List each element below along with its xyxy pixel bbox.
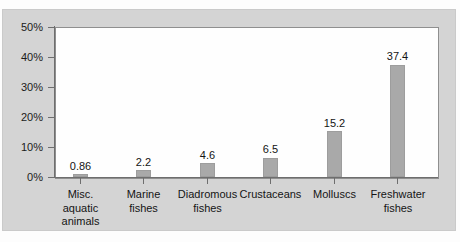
x-axis-category-label: Diadromous fishes bbox=[175, 188, 240, 215]
bar-crustaceans[interactable] bbox=[263, 158, 278, 178]
bar-value-label: 2.2 bbox=[113, 156, 174, 168]
y-axis-tick bbox=[48, 57, 54, 58]
bar-molluscs[interactable] bbox=[327, 131, 342, 177]
bar-value-label: 4.6 bbox=[177, 149, 238, 161]
bar-value-label: 15.2 bbox=[304, 117, 365, 129]
x-axis-category-label: Marine fishes bbox=[113, 188, 174, 215]
y-axis-tick bbox=[48, 87, 54, 88]
x-axis-tick bbox=[397, 178, 398, 184]
x-axis-category-label: Freshwater fishes bbox=[365, 188, 431, 215]
bar-value-label: 37.4 bbox=[367, 50, 428, 62]
bar-freshwater-fishes[interactable] bbox=[390, 65, 405, 177]
y-axis-tick-label: 0% bbox=[3, 172, 43, 183]
x-axis-tick bbox=[207, 178, 208, 184]
y-axis-tick bbox=[48, 147, 54, 148]
bar-value-label: 0.86 bbox=[50, 160, 111, 172]
y-axis-tick-label: 50% bbox=[3, 22, 43, 33]
x-axis-tick bbox=[143, 178, 144, 184]
chart-figure: 0% 10% 20% 30% 40% 50% 0.86 2.2 4.6 6.5 … bbox=[0, 0, 460, 242]
x-axis-category-label: Misc. aquatic animals bbox=[50, 188, 111, 229]
y-axis-tick-label: 10% bbox=[3, 142, 43, 153]
y-axis-line bbox=[54, 26, 55, 178]
y-axis-tick-label: 30% bbox=[3, 82, 43, 93]
x-axis-category-label: Molluscs bbox=[303, 188, 366, 202]
y-axis-tick-label: 20% bbox=[3, 112, 43, 123]
x-axis-tick bbox=[80, 178, 81, 184]
y-axis-tick bbox=[48, 27, 54, 28]
x-axis-tick bbox=[270, 178, 271, 184]
y-axis-tick-label: 40% bbox=[3, 52, 43, 63]
x-axis-line bbox=[54, 177, 438, 178]
bar-misc-aquatic-animals[interactable] bbox=[73, 174, 88, 177]
bar-diadromous-fishes[interactable] bbox=[200, 163, 215, 177]
bar-marine-fishes[interactable] bbox=[136, 170, 151, 177]
chart-panel: 0% 10% 20% 30% 40% 50% 0.86 2.2 4.6 6.5 … bbox=[3, 10, 455, 230]
y-axis-tick bbox=[48, 117, 54, 118]
x-axis-category-label: Crustaceans bbox=[237, 188, 304, 202]
bar-value-label: 6.5 bbox=[240, 143, 301, 155]
x-axis-tick bbox=[334, 178, 335, 184]
